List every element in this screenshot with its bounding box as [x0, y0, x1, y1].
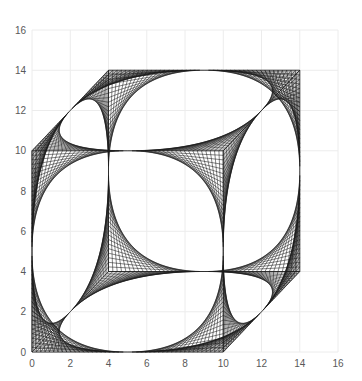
x-tick-label: 12: [256, 358, 268, 369]
x-tick-label: 14: [294, 358, 306, 369]
y-tick-label: 8: [20, 186, 26, 197]
y-tick-label: 10: [15, 145, 27, 156]
y-tick-label: 4: [20, 266, 26, 277]
x-axis-ticks: 0246810121416: [29, 358, 344, 369]
x-tick-label: 6: [144, 358, 150, 369]
string-art-cube: [32, 70, 300, 352]
x-tick-label: 16: [332, 358, 344, 369]
y-tick-label: 2: [20, 306, 26, 317]
x-tick-label: 4: [106, 358, 112, 369]
y-tick-label: 0: [20, 347, 26, 358]
y-tick-label: 6: [20, 226, 26, 237]
x-tick-label: 10: [218, 358, 230, 369]
chart-canvas: 0246810121416 0246810121416: [0, 0, 362, 381]
x-tick-label: 0: [29, 358, 35, 369]
x-tick-label: 8: [182, 358, 188, 369]
y-axis-ticks: 0246810121416: [15, 25, 27, 358]
y-tick-label: 12: [15, 105, 27, 116]
y-tick-label: 14: [15, 65, 27, 76]
y-tick-label: 16: [15, 25, 27, 36]
x-tick-label: 2: [67, 358, 73, 369]
